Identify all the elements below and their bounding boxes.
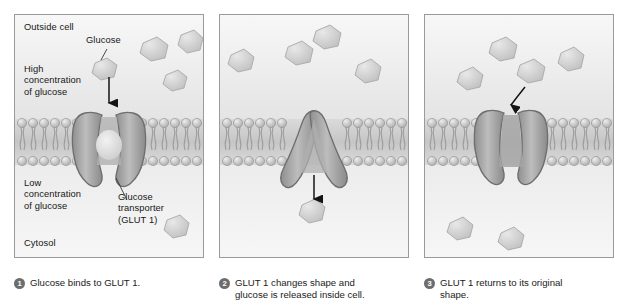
panel-1-svg — [15, 15, 203, 257]
caption-3-text: GLUT 1 returns to its original shape. — [440, 277, 624, 301]
label-cytosol: Cytosol — [24, 238, 56, 249]
caption-3: 3 GLUT 1 returns to its original shape. — [424, 265, 624, 307]
panel-1: Outside cell Glucose High concentration … — [14, 14, 204, 258]
panel-2-svg — [220, 15, 408, 257]
caption-1-text: Glucose binds to GLUT 1. — [30, 277, 210, 289]
panel-1-artwork — [14, 14, 204, 258]
glucose-transport-figure: Outside cell Glucose High concentration … — [0, 0, 631, 307]
step-number-badge: 2 — [219, 278, 230, 289]
step-number-badge: 1 — [14, 278, 25, 289]
label-glucose: Glucose — [86, 35, 121, 46]
label-outside-cell: Outside cell — [24, 22, 74, 33]
panel-3-artwork — [424, 14, 614, 258]
caption-2-text: GLUT 1 changes shape and glucose is rele… — [235, 277, 419, 301]
panel-3-svg — [425, 15, 613, 257]
label-high-concentration: High concentration of glucose — [24, 64, 81, 98]
glut1-pore — [499, 115, 523, 167]
label-glucose-transporter: Glucose transporter (GLUT 1) — [118, 192, 164, 226]
label-low-concentration: Low concentration of glucose — [24, 178, 81, 212]
step-number-badge: 3 — [424, 278, 435, 289]
caption-1: 1 Glucose binds to GLUT 1. — [14, 265, 210, 301]
glucose-in-pore — [96, 130, 122, 160]
panel-3 — [424, 14, 614, 258]
caption-2: 2 GLUT 1 changes shape and glucose is re… — [219, 265, 419, 307]
panel-2 — [219, 14, 409, 258]
panel-2-artwork — [219, 14, 409, 258]
